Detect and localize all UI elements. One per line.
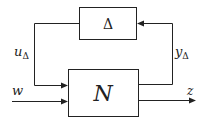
u-delta-arrowhead <box>61 83 68 89</box>
w-arrowhead <box>61 99 68 105</box>
u-delta-label: uΔ <box>14 44 29 61</box>
z-label: z <box>186 84 194 98</box>
y-delta-label: yΔ <box>174 44 189 61</box>
plant-block-label: N <box>92 81 113 106</box>
w-label: w <box>12 83 23 98</box>
z-arrowhead <box>189 98 196 104</box>
lft-block-diagram: Δ N uΔ yΔ w z <box>0 0 205 124</box>
y-delta-arrowhead <box>137 21 144 27</box>
y-delta-wire <box>139 24 173 85</box>
delta-block-label: Δ <box>103 16 113 32</box>
